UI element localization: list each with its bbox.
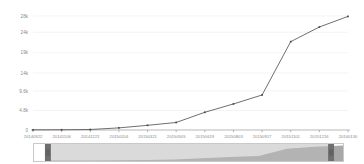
y-axis-tick-label: 24k <box>21 30 29 35</box>
x-axis-tick-label: 20150803 <box>224 134 243 139</box>
navigator-svg[interactable] <box>34 144 343 161</box>
x-axis-tick-label: 20160130 <box>339 134 358 139</box>
navigator-selected-region[interactable] <box>48 144 331 161</box>
y-axis-labels-group: 28k24k19k14k9.6k4.8k0 <box>19 14 28 133</box>
data-point-marker[interactable] <box>89 129 91 131</box>
x-axis-tick-label: 20141106 <box>52 134 71 139</box>
line-chart-widget: 28k24k19k14k9.6k4.8k0 201409222014110620… <box>0 0 364 164</box>
y-axis-tick-label: 0 <box>25 128 28 133</box>
x-axis-tick-label: 20150917 <box>253 134 272 139</box>
data-point-marker[interactable] <box>290 41 292 43</box>
x-axis-tick-label: 20150619 <box>195 134 214 139</box>
x-axis-tick-label: 20150204 <box>110 134 129 139</box>
data-point-marker[interactable] <box>61 129 63 131</box>
gridlines-group <box>33 16 348 110</box>
x-axis-labels-group: 2014092220141106201412212015020420150321… <box>24 134 358 139</box>
y-axis-tick-label: 4.8k <box>19 108 28 113</box>
data-point-marker[interactable] <box>233 103 235 105</box>
x-axis-tick-label: 20141221 <box>81 134 100 139</box>
y-axis-tick-label: 28k <box>21 14 29 19</box>
left-handle[interactable] <box>45 144 51 161</box>
chart-plot-area: 28k24k19k14k9.6k4.8k0 201409222014110620… <box>0 0 364 140</box>
x-axis-tick-label: 20151101 <box>282 134 301 139</box>
x-axis-tick-label: 20150321 <box>138 134 157 139</box>
navigator-selection-mask[interactable] <box>34 144 331 161</box>
x-axis-tick-label: 20150505 <box>167 134 186 139</box>
data-point-marker[interactable] <box>204 111 206 113</box>
range-selector[interactable] <box>33 143 344 162</box>
data-point-marker[interactable] <box>319 26 321 28</box>
right-handle[interactable] <box>328 144 334 161</box>
data-point-marker[interactable] <box>347 16 349 18</box>
data-point-marker[interactable] <box>32 129 34 131</box>
y-axis-tick-label: 19k <box>21 50 29 55</box>
x-axis-line-group <box>31 130 350 132</box>
y-axis-tick-label: 9.6k <box>19 89 28 94</box>
data-point-marker[interactable] <box>147 124 149 126</box>
data-point-marker[interactable] <box>261 94 263 96</box>
data-point-marker[interactable] <box>175 122 177 124</box>
x-axis-tick-label: 20140922 <box>24 134 43 139</box>
x-axis-tick-label: 20151216 <box>310 134 329 139</box>
data-point-marker[interactable] <box>118 127 120 129</box>
y-axis-tick-label: 14k <box>21 71 29 76</box>
